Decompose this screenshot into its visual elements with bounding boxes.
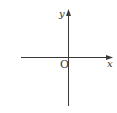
- origin-label: O: [60, 58, 69, 71]
- coordinate-plane: y O x: [0, 0, 117, 113]
- y-axis-arrow-icon: [66, 9, 71, 16]
- x-axis-label: x: [107, 58, 113, 69]
- y-axis-label: y: [58, 8, 65, 19]
